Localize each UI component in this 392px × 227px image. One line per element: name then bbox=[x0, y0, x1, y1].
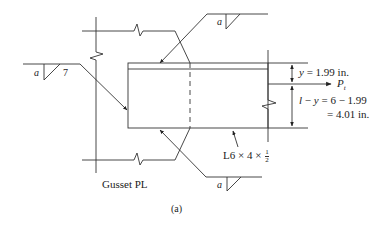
left-weld-size: a bbox=[34, 68, 39, 78]
left-weld-length: 7 bbox=[63, 68, 68, 78]
figure-caption: (a) bbox=[171, 204, 182, 214]
gusset-plate bbox=[82, 17, 190, 173]
angle-leader bbox=[233, 131, 238, 147]
force-label: Pt bbox=[337, 78, 346, 92]
angle-label: L6 × 4 × 12 bbox=[223, 149, 269, 164]
top-weld-size: a bbox=[217, 17, 222, 27]
angle-fraction: 12 bbox=[265, 149, 269, 164]
top-weld-symbol bbox=[160, 14, 268, 63]
remainder-dimension-value: = 4.01 in. bbox=[327, 109, 369, 120]
gusset-label: Gusset PL bbox=[102, 179, 148, 190]
angle-section bbox=[128, 63, 268, 128]
bottom-weld-size: a bbox=[217, 180, 222, 190]
remainder-dimension-label: l − y = 6 − 1.99 bbox=[299, 95, 367, 106]
